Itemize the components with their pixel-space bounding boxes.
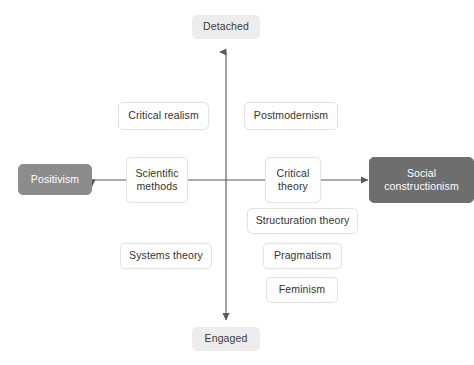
card-critical-theory: Critical theory <box>265 157 321 203</box>
diagram-canvas: Detached Engaged Positivism Social const… <box>0 0 474 365</box>
card-pragmatism: Pragmatism <box>263 243 342 269</box>
card-systems-theory: Systems theory <box>120 243 212 269</box>
anchor-positivism: Positivism <box>18 164 92 195</box>
card-structuration-theory: Structuration theory <box>247 208 358 234</box>
card-postmodernism: Postmodernism <box>244 102 338 130</box>
card-feminism: Feminism <box>266 277 338 303</box>
axis-label-engaged: Engaged <box>192 327 260 351</box>
card-scientific-methods: Scientific methods <box>126 157 188 203</box>
axis-label-detached: Detached <box>192 15 260 39</box>
card-critical-realism: Critical realism <box>118 102 209 130</box>
anchor-social-constructionism: Social constructionism <box>369 157 474 203</box>
